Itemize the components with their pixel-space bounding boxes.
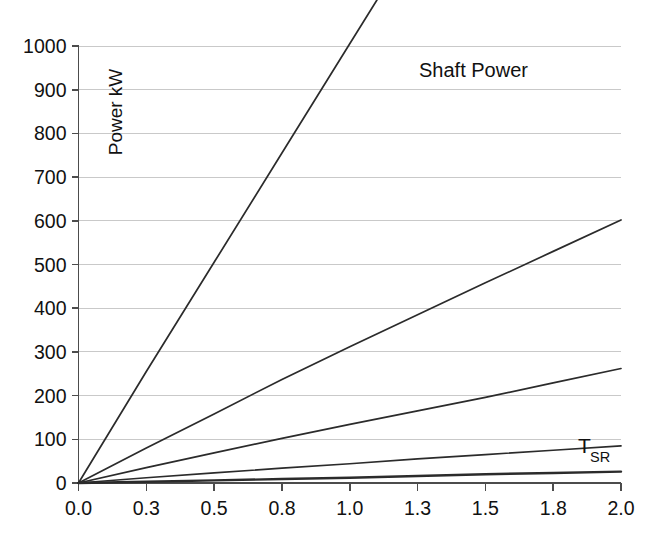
x-tick-label-0.0: 0.0 [65, 497, 92, 519]
y-tick-label-1000: 1000 [23, 35, 67, 57]
y-tick-label-800: 800 [34, 122, 67, 144]
x-tick-label-1.3: 1.3 [404, 497, 431, 519]
y-tick-label-500: 500 [34, 254, 67, 276]
series-line-3 [79, 369, 622, 483]
y-axis-title: Power kW [105, 69, 126, 156]
y-tick-label-100: 100 [34, 428, 67, 450]
y-tick-label-900: 900 [34, 79, 67, 101]
y-tick-label-200: 200 [34, 385, 67, 407]
tick-marks [72, 46, 622, 491]
t-sr-annotation-subscript: SR [590, 449, 610, 465]
x-tick-label-2.0: 2.0 [607, 497, 634, 519]
y-axis-tick-labels: 01002003004005006007008009001000 [23, 35, 67, 494]
shaft-power-chart: 01002003004005006007008009001000 0.00.30… [0, 0, 659, 542]
x-tick-label-0.3: 0.3 [133, 497, 160, 519]
x-tick-label-0.8: 0.8 [268, 497, 295, 519]
y-tick-label-700: 700 [34, 166, 67, 188]
x-axis-tick-labels: 0.00.30.50.81.01.31.51.82.0 [65, 497, 635, 519]
y-tick-label-300: 300 [34, 341, 67, 363]
gridlines [79, 46, 622, 439]
y-tick-label-600: 600 [34, 210, 67, 232]
x-tick-label-1.5: 1.5 [472, 497, 499, 519]
chart-title: Shaft Power [419, 59, 528, 81]
y-tick-label-400: 400 [34, 297, 67, 319]
data-series [79, 0, 622, 483]
x-tick-label-0.5: 0.5 [201, 497, 228, 519]
x-tick-label-1.8: 1.8 [540, 497, 567, 519]
x-tick-label-1.0: 1.0 [336, 497, 363, 519]
chart-canvas: 01002003004005006007008009001000 0.00.30… [0, 0, 659, 542]
y-tick-label-0: 0 [56, 472, 67, 494]
